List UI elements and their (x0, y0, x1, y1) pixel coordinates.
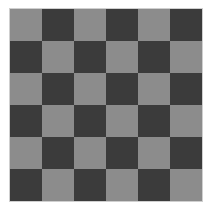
dark-square (74, 169, 106, 201)
dark-square (170, 73, 202, 105)
dark-square (10, 41, 42, 73)
light-square (10, 137, 42, 169)
checkerboard (9, 8, 203, 202)
light-square (138, 73, 170, 105)
light-square (106, 105, 138, 137)
dark-square (138, 41, 170, 73)
dark-square (42, 137, 74, 169)
light-square (74, 137, 106, 169)
light-square (42, 105, 74, 137)
dark-square (42, 73, 74, 105)
dark-square (74, 105, 106, 137)
dark-square (170, 9, 202, 41)
dark-square (10, 105, 42, 137)
light-square (42, 41, 74, 73)
dark-square (74, 41, 106, 73)
light-square (10, 9, 42, 41)
dark-square (138, 169, 170, 201)
dark-square (106, 73, 138, 105)
light-square (170, 41, 202, 73)
light-square (106, 41, 138, 73)
light-square (138, 137, 170, 169)
dark-square (106, 137, 138, 169)
light-square (106, 169, 138, 201)
dark-square (170, 137, 202, 169)
light-square (42, 169, 74, 201)
light-square (74, 9, 106, 41)
dark-square (10, 169, 42, 201)
dark-square (106, 9, 138, 41)
light-square (138, 9, 170, 41)
dark-square (42, 9, 74, 41)
light-square (170, 169, 202, 201)
light-square (10, 73, 42, 105)
light-square (170, 105, 202, 137)
light-square (74, 73, 106, 105)
dark-square (138, 105, 170, 137)
